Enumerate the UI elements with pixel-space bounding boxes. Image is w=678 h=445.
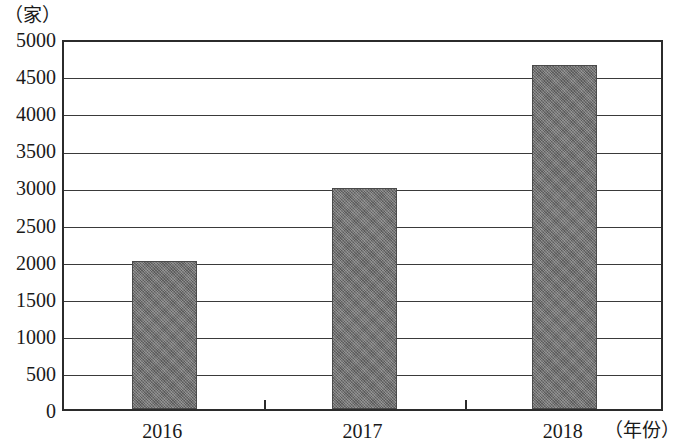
bar — [332, 188, 397, 409]
bar — [132, 261, 197, 409]
y-axis-tick-label: 5000 — [16, 30, 56, 50]
y-axis-tick-label: 1500 — [16, 290, 56, 310]
bar-chart: （家） 050010001500200025003000350040004500… — [0, 0, 678, 445]
x-axis-separator-tick — [264, 400, 266, 409]
y-axis-tick-label: 4000 — [16, 104, 56, 124]
x-axis-unit-label: （年份） — [604, 421, 678, 440]
y-axis-tick-label: 2500 — [16, 216, 56, 236]
y-axis-tick-label: 3500 — [16, 141, 56, 161]
x-axis-tick-label: 2017 — [343, 421, 383, 441]
x-axis-separator-tick — [465, 400, 467, 409]
y-axis-tick-label: 4500 — [16, 67, 56, 87]
x-axis-tick-label: 2016 — [142, 421, 182, 441]
y-axis-unit-label: （家） — [4, 6, 61, 25]
bar — [532, 65, 597, 409]
x-axis-tick-label: 2018 — [543, 421, 583, 441]
y-axis-tick-label: 1000 — [16, 327, 56, 347]
y-axis-tick-label: 500 — [26, 364, 56, 384]
plot-area — [62, 40, 663, 411]
y-axis-tick-label: 2000 — [16, 253, 56, 273]
y-axis-tick-label: 3000 — [16, 178, 56, 198]
y-axis-tick-label: 0 — [46, 401, 56, 421]
